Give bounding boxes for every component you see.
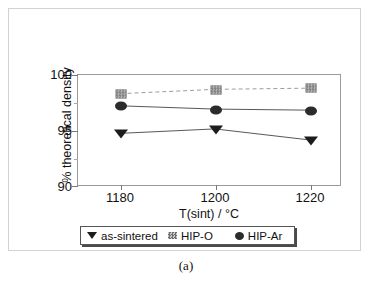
figure-caption: (a) <box>0 258 372 274</box>
datapoint-as-sintered-1180 <box>114 130 128 139</box>
plot-area <box>77 74 341 186</box>
legend-item-hip-o: HIP-O <box>168 230 213 242</box>
figure-a: % theoretical density 100 95 90 <box>0 0 372 289</box>
datapoint-hip-ar-1180 <box>115 102 127 111</box>
chart-legend: as-sintered HIP-O HIP-Ar <box>80 226 295 245</box>
y-axis-tick-labels: 100 95 90 <box>28 74 72 186</box>
datapoint-as-sintered-1220 <box>304 137 318 146</box>
y-tick-90 <box>72 186 78 187</box>
legend-item-as-sintered: as-sintered <box>87 230 158 242</box>
y-tick-label-90: 90 <box>58 179 72 194</box>
datapoint-hip-o-1180 <box>116 90 127 99</box>
square-marker-icon <box>168 232 177 239</box>
datapoint-hip-ar-1220 <box>305 106 317 115</box>
legend-item-hip-ar: HIP-Ar <box>235 230 283 242</box>
x-tick-label-1180: 1180 <box>106 190 134 205</box>
datapoint-hip-o-1200 <box>211 85 222 94</box>
x-tick-label-1200: 1200 <box>201 190 230 205</box>
triangle-down-marker-icon <box>87 232 97 239</box>
x-tick-label-1220: 1220 <box>296 190 325 205</box>
legend-label-hip-ar: HIP-Ar <box>248 230 283 242</box>
x-axis-title: T(sint) / °C <box>77 207 341 221</box>
legend-label-as-sintered: as-sintered <box>101 230 158 242</box>
datapoint-hip-ar-1200 <box>210 105 222 114</box>
y-tick-label-95: 95 <box>58 123 72 138</box>
y-tick-label-100: 100 <box>50 67 72 82</box>
legend-label-hip-o: HIP-O <box>181 230 213 242</box>
datapoint-as-sintered-1200 <box>209 125 223 134</box>
datapoint-hip-o-1220 <box>306 84 317 93</box>
circle-marker-icon <box>235 232 244 240</box>
x-axis-tick-labels: 1180 1200 1220 <box>77 190 341 208</box>
